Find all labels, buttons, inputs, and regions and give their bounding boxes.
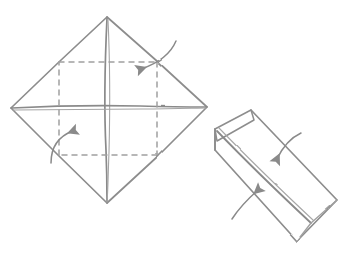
- diamond-diagonals: [12, 18, 206, 202]
- strip-bottom-fold-edge: [311, 200, 337, 223]
- vertical-diagonal: [105, 18, 107, 202]
- strip-body: [215, 110, 337, 241]
- strip-upper-flap: [215, 110, 254, 141]
- strip-center-crease: [217, 128, 337, 241]
- figure-right-strip: [215, 110, 337, 241]
- figure-left-diamond: [11, 17, 207, 203]
- strip-bottom-fold-edge-2: [297, 223, 311, 241]
- center-crease-line: [217, 131, 311, 223]
- horizontal-diagonal: [12, 106, 206, 108]
- fold-arrow-upper-right: [141, 41, 176, 69]
- origami-diagram-canvas: [0, 0, 350, 255]
- fold-arrow-lower-strip: [232, 190, 258, 219]
- fold-arrow-upper-strip: [277, 133, 301, 159]
- origami-diagram-svg: [0, 0, 350, 255]
- strip-outline: [215, 110, 337, 241]
